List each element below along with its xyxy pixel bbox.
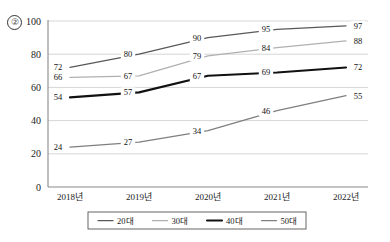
data-label: 66 <box>54 72 63 82</box>
gridlines <box>48 21 368 187</box>
series-lines <box>70 26 346 147</box>
y-tick-label: 20 <box>31 148 41 159</box>
x-tick-label: 2018년 <box>57 192 83 202</box>
y-tick-label: 0 <box>36 182 41 193</box>
data-label: 95 <box>262 24 271 34</box>
legend-label-40대: 40대 <box>226 216 243 226</box>
data-label: 72 <box>54 62 63 72</box>
legend-label-50대: 50대 <box>281 216 298 226</box>
data-label: 67 <box>193 71 202 81</box>
data-label: 67 <box>124 71 133 81</box>
x-tick-label: 2020년 <box>195 192 221 202</box>
y-tick-label: 80 <box>31 49 41 60</box>
legend-label-20대: 20대 <box>117 216 134 226</box>
data-label: 90 <box>193 33 202 43</box>
series-line-50대 <box>70 96 346 147</box>
data-label: 55 <box>354 91 363 101</box>
line-chart-canvas: 100806040200 2018년2019년2020년2021년2022년 7… <box>0 0 390 242</box>
x-tick-label: 2021년 <box>264 192 290 202</box>
data-label: 72 <box>354 62 363 72</box>
data-label: 84 <box>262 43 271 53</box>
y-tick-label: 40 <box>31 115 41 126</box>
data-label: 46 <box>262 106 271 116</box>
data-label: 54 <box>54 92 63 102</box>
y-axis-tick-labels: 100806040200 <box>26 16 41 193</box>
data-label: 34 <box>193 126 202 136</box>
data-label: 69 <box>262 67 271 77</box>
data-label: 79 <box>193 51 202 61</box>
x-tick-label: 2022년 <box>333 192 359 202</box>
data-label: 57 <box>124 87 133 97</box>
y-tick-label: 100 <box>26 16 41 27</box>
data-label: 24 <box>54 142 63 152</box>
data-label: 80 <box>124 49 133 59</box>
x-axis-tick-labels: 2018년2019년2020년2021년2022년 <box>57 192 359 202</box>
y-tick-label: 60 <box>31 82 41 93</box>
series-line-40대 <box>70 67 346 97</box>
legend-label-30대: 30대 <box>172 216 189 226</box>
data-label: 27 <box>124 137 133 147</box>
x-tick-label: 2019년 <box>126 192 152 202</box>
series-line-20대 <box>70 26 346 68</box>
data-label: 97 <box>354 21 363 31</box>
data-label: 88 <box>354 36 363 46</box>
chart-figure: ② 100806040200 2018년2019년2020년2021년2022년… <box>0 0 390 242</box>
series-data-labels: 7280909597666779848854576769722427344655 <box>51 21 365 153</box>
chart-legend: 20대30대40대50대 <box>88 212 306 229</box>
